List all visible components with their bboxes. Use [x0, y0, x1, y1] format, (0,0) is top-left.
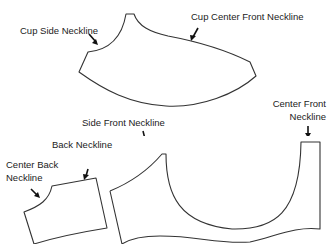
- label-center-front-neckline-1: Center Front: [262, 98, 326, 110]
- label-cup-center-front-neckline: Cup Center Front Neckline: [191, 11, 303, 23]
- label-center-back-neckline-1: Center Back: [6, 159, 58, 171]
- label-cup-side-neckline: Cup Side Neckline: [20, 25, 98, 37]
- label-back-neckline: Back Neckline: [52, 139, 112, 151]
- label-center-front-neckline-2: Neckline: [262, 111, 326, 123]
- label-center-back-neckline-2: Neckline: [6, 172, 42, 184]
- label-side-front-neckline: Side Front Neckline: [82, 117, 165, 129]
